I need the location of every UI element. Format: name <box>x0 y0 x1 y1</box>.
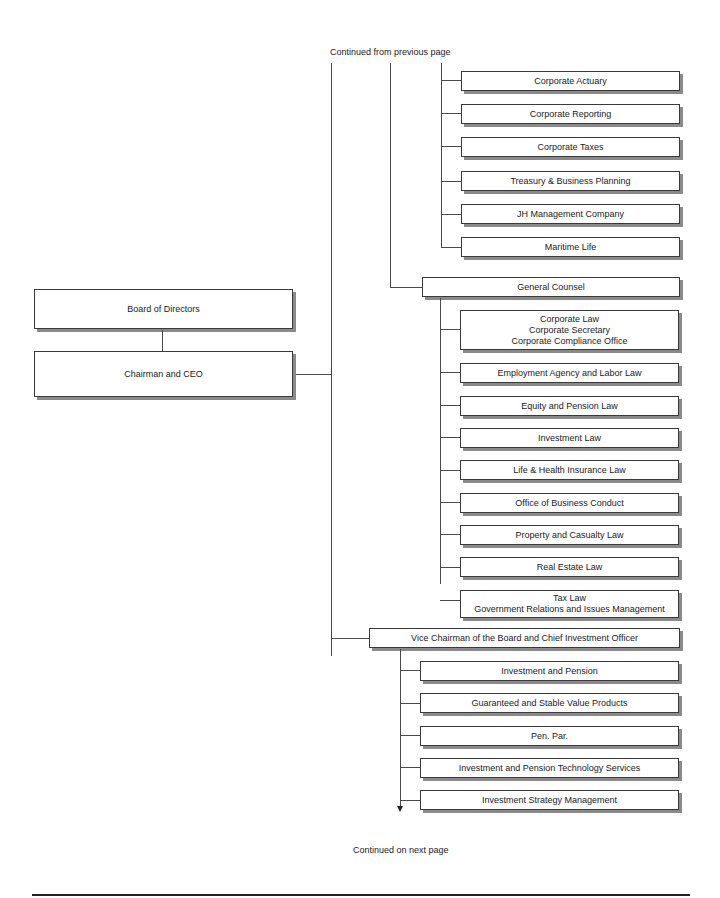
ceo-label: Chairman and CEO <box>124 369 203 380</box>
box-label: Tax Law <box>474 593 665 604</box>
org-box-tech-services: Investment and Pension Technology Servic… <box>420 758 679 778</box>
box-label: JH Management Company <box>517 209 624 220</box>
connector-h <box>440 534 460 535</box>
connector-h <box>400 767 420 768</box>
box-label: Investment Strategy Management <box>482 795 617 806</box>
connector-h <box>440 470 460 471</box>
box-label: Treasury & Business Planning <box>510 176 630 187</box>
vice-chairman-box: Vice Chairman of the Board and Chief Inv… <box>369 628 680 648</box>
org-box-treasury: Treasury & Business Planning <box>461 171 680 191</box>
continued-on-note: Continued on next page <box>353 845 449 855</box>
box-label: Corporate Actuary <box>534 76 607 87</box>
connector-finance-vertical <box>441 63 442 248</box>
connector-ceo-main <box>296 374 332 375</box>
bottom-rule <box>32 894 690 896</box>
connector-h <box>440 405 460 406</box>
board-label: Board of Directors <box>127 304 200 315</box>
arrow-down-icon <box>397 806 403 812</box>
box-label: Government Relations and Issues Manageme… <box>474 604 665 615</box>
org-box-corporate-actuary: Corporate Actuary <box>461 71 680 91</box>
box-label: Property and Casualty Law <box>515 530 623 541</box>
connector-h <box>441 181 461 182</box>
box-label: Life & Health Insurance Law <box>513 465 626 476</box>
connector-h <box>440 372 460 373</box>
chairman-ceo-box: Chairman and CEO <box>34 351 293 397</box>
org-box-corporate-law: Corporate Law Corporate Secretary Corpor… <box>460 310 679 350</box>
connector-h <box>400 703 420 704</box>
box-label: Investment Law <box>538 433 601 444</box>
board-of-directors-box: Board of Directors <box>34 289 293 329</box>
connector-h <box>440 567 460 568</box>
org-box-jh-management: JH Management Company <box>461 204 680 224</box>
connector-main-vertical <box>331 63 332 656</box>
connector-h <box>441 80 461 81</box>
org-box-employment-law: Employment Agency and Labor Law <box>460 363 679 383</box>
box-label: Maritime Life <box>545 242 597 253</box>
connector-h <box>441 214 461 215</box>
org-box-real-estate-law: Real Estate Law <box>460 557 679 577</box>
box-label: Real Estate Law <box>537 562 603 573</box>
box-label: Guaranteed and Stable Value Products <box>472 698 628 709</box>
org-box-life-health-law: Life & Health Insurance Law <box>460 460 679 480</box>
connector-h <box>400 735 420 736</box>
connector-h <box>441 146 461 147</box>
org-box-maritime-life: Maritime Life <box>461 237 680 257</box>
connector-h <box>400 800 420 801</box>
connector-vc-children <box>400 649 401 807</box>
org-box-corporate-taxes: Corporate Taxes <box>461 137 680 157</box>
box-label: Pen. Par. <box>531 731 568 742</box>
connector-h <box>440 329 460 330</box>
box-label: Corporate Reporting <box>530 109 612 120</box>
connector-board-ceo <box>162 330 163 351</box>
connector-gc-vertical <box>390 63 391 288</box>
general-counsel-box: General Counsel <box>422 277 680 297</box>
continued-from-note: Continued from previous page <box>330 47 451 57</box>
connector-h <box>440 600 460 601</box>
box-label: Vice Chairman of the Board and Chief Inv… <box>411 633 638 644</box>
connector-h <box>441 247 461 248</box>
connector-gc-children <box>440 298 441 584</box>
box-label: Corporate Secretary <box>512 325 628 336</box>
connector-h <box>440 437 460 438</box>
org-box-property-casualty-law: Property and Casualty Law <box>460 525 679 545</box>
org-box-business-conduct: Office of Business Conduct <box>460 493 679 513</box>
box-label: Corporate Compliance Office <box>512 336 628 347</box>
connector-h <box>441 113 461 114</box>
box-label: Equity and Pension Law <box>521 401 618 412</box>
box-label: Office of Business Conduct <box>515 498 623 509</box>
box-label: Employment Agency and Labor Law <box>497 368 641 379</box>
org-box-investment-pension: Investment and Pension <box>420 661 679 681</box>
org-box-corporate-reporting: Corporate Reporting <box>461 104 680 124</box>
org-box-strategy-management: Investment Strategy Management <box>420 790 679 810</box>
box-label: Investment and Pension <box>501 666 598 677</box>
connector-h <box>331 638 369 639</box>
box-label: Corporate Law <box>512 314 628 325</box>
box-label: Corporate Taxes <box>538 142 604 153</box>
connector-h <box>440 502 460 503</box>
box-label: Investment and Pension Technology Servic… <box>459 763 640 774</box>
box-label: General Counsel <box>517 282 585 293</box>
org-box-equity-pension-law: Equity and Pension Law <box>460 396 679 416</box>
org-box-guaranteed-products: Guaranteed and Stable Value Products <box>420 693 679 713</box>
org-box-tax-law: Tax Law Government Relations and Issues … <box>460 590 679 618</box>
org-box-investment-law: Investment Law <box>460 428 679 448</box>
connector-h <box>390 287 422 288</box>
connector-h <box>400 670 420 671</box>
org-box-pen-par: Pen. Par. <box>420 726 679 746</box>
